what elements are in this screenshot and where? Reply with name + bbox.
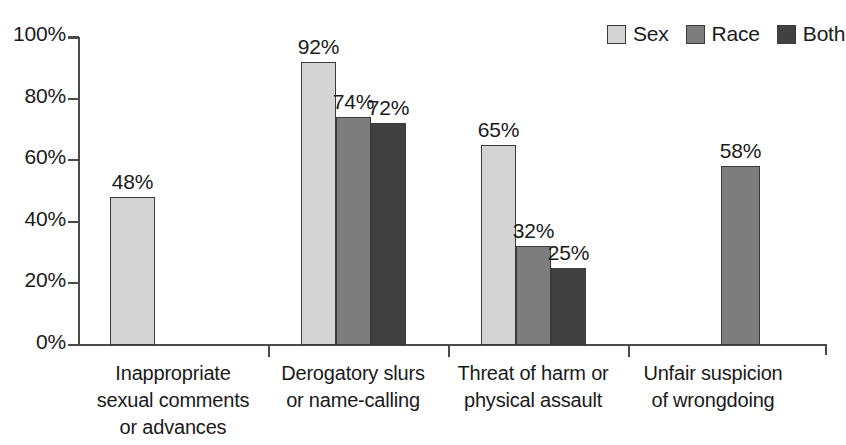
legend-label: Sex [633,22,669,46]
bar-value-label: 92% [289,35,349,59]
category-label-line: Inappropriate [83,360,263,387]
chart-legend: SexRaceBoth [607,22,845,46]
legend-swatch-icon [607,25,626,44]
bar-chart: 0%20%40%60%80%100% 48%92%74%72%65%32%25%… [0,0,846,445]
legend-label: Race [712,22,760,46]
legend-item-sex[interactable]: Sex [607,22,669,46]
category-label-0: Inappropriatesexual commentsor advances [83,360,263,441]
x-axis-right-cap [825,344,827,355]
bar-value-label: 58% [711,139,771,163]
bar-race-cat1 [336,117,371,345]
bar-sex-cat2 [481,145,516,345]
y-axis-tick-label: 80% [0,84,66,108]
category-label-line: Unfair suspicion [623,360,803,387]
legend-item-race[interactable]: Race [686,22,760,46]
category-label-3: Unfair suspicionof wrongdoing [623,360,803,414]
category-label-line: Derogatory slurs [263,360,443,387]
category-label-1: Derogatory slursor name-calling [263,360,443,414]
bar-value-label: 65% [469,118,529,142]
category-label-2: Threat of harm orphysical assault [443,360,623,414]
legend-label: Both [803,22,845,46]
legend-item-both[interactable]: Both [777,22,845,46]
category-label-line: or name-calling [263,387,443,414]
bar-value-label: 72% [359,96,419,120]
y-axis-tick-label: 100% [0,22,66,46]
bar-both-cat1 [371,123,406,345]
bar-both-cat2 [551,268,586,345]
bar-value-label: 25% [539,241,599,265]
x-axis-separator-tick [628,346,630,357]
y-axis-tick-label: 40% [0,207,66,231]
category-label-line: or advances [83,414,263,441]
category-label-line: physical assault [443,387,623,414]
y-axis-tick-label: 0% [0,330,66,354]
bar-race-cat3 [721,166,760,345]
bar-sex-cat0 [110,197,155,345]
bar-value-label: 48% [103,170,163,194]
x-axis-separator-tick [268,346,270,357]
y-axis-tick-label: 60% [0,145,66,169]
legend-swatch-icon [777,25,796,44]
x-axis-separator-tick [448,346,450,357]
bar-value-label: 32% [504,219,564,243]
y-axis-tick-label: 20% [0,268,66,292]
legend-swatch-icon [686,25,705,44]
category-label-line: Threat of harm or [443,360,623,387]
bars-layer [78,37,827,345]
category-label-line: of wrongdoing [623,387,803,414]
category-label-line: sexual comments [83,387,263,414]
